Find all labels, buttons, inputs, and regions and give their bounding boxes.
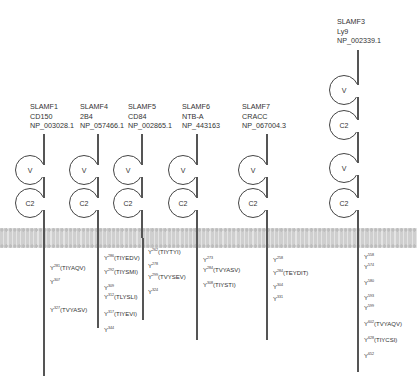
- slamf6-domain-c2: C2: [168, 188, 198, 218]
- receptor-label-slamf5: SLAMF5 CD84 NP_002865.1: [128, 102, 172, 131]
- receptor-accession: NP_003028.1: [30, 121, 74, 131]
- receptor-accession: NP_057466.1: [80, 121, 124, 131]
- slamf3-domain-c2-2: C2: [329, 188, 359, 218]
- receptor-accession: NP_002339.1: [337, 36, 381, 46]
- receptor-alias: 2B4: [80, 112, 124, 122]
- receptor-alias: Ly9: [337, 27, 381, 37]
- slamf5-tyrosine: Y262(TIYTYI): [148, 246, 181, 256]
- slamf5-backbone-ext: [141, 134, 143, 238]
- slam-family-diagram: SLAMF1 CD150 NP_003028.1 V C2 Y281(TIYAQ…: [0, 0, 417, 384]
- cell-membrane: [0, 228, 417, 248]
- slamf1-domain-v: V: [15, 155, 45, 185]
- receptor-name: SLAMF5: [128, 102, 172, 112]
- receptor-label-slamf7: SLAMF7 CRACC NP_067004.3: [242, 102, 286, 131]
- slamf3-tyrosine: Y652: [364, 350, 374, 360]
- receptor-name: SLAMF1: [30, 102, 74, 112]
- slamf3-domain-v2: V: [329, 153, 359, 183]
- slamf5-tyrosine: Y299(TVYSEV): [148, 271, 186, 281]
- slamf3-tyrosine: Y558: [364, 251, 374, 261]
- slamf3-tyrosine: Y580: [364, 277, 374, 287]
- slamf6-tyrosine: Y308(TIYSTI): [203, 279, 236, 289]
- receptor-accession: NP_067004.3: [242, 121, 286, 131]
- slamf5-domain-c2: C2: [113, 188, 143, 218]
- receptor-accession: NP_443163: [182, 121, 220, 131]
- slamf7-domain-c2: C2: [238, 188, 268, 218]
- receptor-name: SLAMF7: [242, 102, 286, 112]
- slamf6-domain-v: V: [168, 155, 198, 185]
- slamf3-backbone: [357, 50, 359, 372]
- slamf1-domain-c2: C2: [15, 188, 45, 218]
- slamf5-backbone: [142, 238, 144, 320]
- receptor-accession: NP_002865.1: [128, 121, 172, 131]
- slamf4-domain-v: V: [69, 155, 99, 185]
- slamf1-tyrosine: Y281(TIYAQV): [50, 262, 86, 272]
- slamf4-tyrosine: Y292(TIYSMI): [104, 266, 138, 276]
- receptor-alias: CRACC: [242, 112, 286, 122]
- slamf7-domain-v: V: [238, 155, 268, 185]
- slamf7-tyrosine: Y304: [273, 281, 283, 291]
- slamf3-tyrosine: Y599: [364, 302, 374, 312]
- receptor-alias: NTB-A: [182, 112, 220, 122]
- receptor-label-slamf3: SLAMF3 Ly9 NP_002339.1: [337, 17, 381, 46]
- slamf3-tyrosine: Y574: [364, 261, 374, 271]
- receptor-alias: CD84: [128, 112, 172, 122]
- slamf6-tyrosine: Y284(TVYASV): [203, 264, 240, 274]
- slamf4-tyrosine: Y312(TLYSLI): [104, 291, 138, 301]
- slamf4-tyrosine: Y317(TIYEVI): [104, 308, 137, 318]
- slamf4-tyrosine: Y344: [104, 324, 114, 334]
- slamf5-tyrosine: Y324: [148, 286, 158, 296]
- receptor-label-slamf4: SLAMF4 2B4 NP_057466.1: [80, 102, 124, 131]
- slamf6-tyrosine: Y273: [203, 254, 213, 264]
- receptor-name: SLAMF4: [80, 102, 124, 112]
- slamf1-tyrosine: Y327(TVYASV): [50, 304, 87, 314]
- slamf5-domain-v: V: [113, 155, 143, 185]
- slamf3-domain-c2-1: C2: [329, 110, 359, 140]
- slamf5-tyrosine: Y278: [148, 260, 158, 270]
- slamf4-domain-c2: C2: [69, 188, 99, 218]
- receptor-label-slamf1: SLAMF1 CD150 NP_003028.1: [30, 102, 74, 131]
- receptor-label-slamf6: SLAMF6 NTB-A NP_443163: [182, 102, 220, 131]
- slamf7-tyrosine: Y331: [273, 293, 283, 303]
- slamf4-tyrosine: Y286(TIYEDV): [104, 252, 140, 262]
- receptor-name: SLAMF6: [182, 102, 220, 112]
- slamf3-tyrosine: Y602(TVYAQV): [364, 318, 402, 328]
- slamf3-tyrosine: Y593: [364, 292, 374, 302]
- receptor-alias: CD150: [30, 112, 74, 122]
- slamf3-tyrosine: Y628(TIYCSI): [364, 334, 397, 344]
- slamf1-tyrosine: Y307: [50, 276, 60, 286]
- receptor-name: SLAMF3: [337, 17, 381, 27]
- slamf3-domain-v1: V: [329, 75, 359, 105]
- slamf7-tyrosine: Y284(TEYDIT): [273, 267, 308, 277]
- slamf7-tyrosine: Y258: [273, 254, 283, 264]
